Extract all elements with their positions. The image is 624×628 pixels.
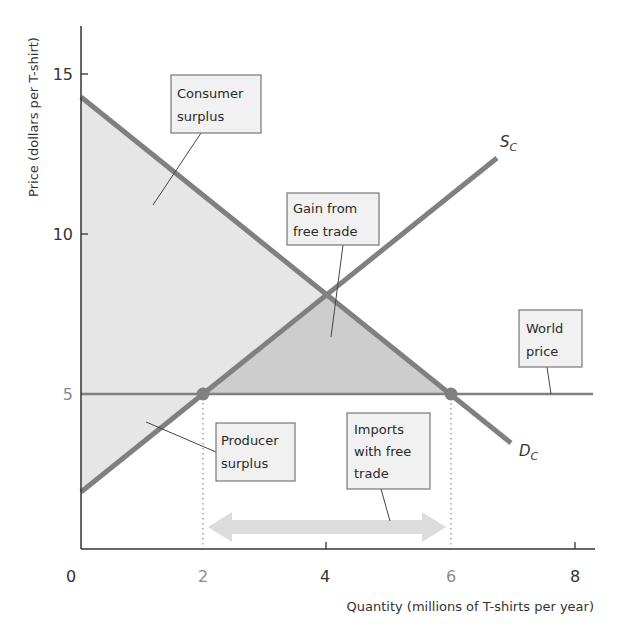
y-tick-label-10: 10 — [53, 225, 73, 244]
supply-curve-label: SC — [500, 133, 518, 154]
producer-surplus-box: Producer surplus — [216, 423, 295, 481]
imports-double-arrow — [208, 512, 446, 542]
gain-line-1: Gain from — [293, 201, 357, 216]
world-price-leader — [547, 367, 551, 394]
producer-surplus-line-2: surplus — [221, 456, 268, 471]
producer-surplus-leader — [146, 422, 216, 452]
world-price-line-2: price — [526, 344, 558, 359]
imports-line-3: trade — [354, 466, 389, 481]
x-tick-label-6: 6 — [446, 567, 456, 586]
world-price-line-1: World — [526, 321, 563, 336]
x-tick-label-4: 4 — [320, 567, 330, 586]
x-tick-label-8: 8 — [570, 567, 580, 586]
domestic-production-point — [197, 388, 210, 401]
consumer-surplus-box: Consumer surplus — [171, 75, 261, 133]
y-tick-label-15: 15 — [53, 65, 73, 84]
imports-line-2: with free — [354, 444, 411, 459]
consumer-surplus-line-1: Consumer — [177, 86, 244, 101]
x-axis-title: Quantity (millions of T-shirts per year) — [347, 599, 594, 614]
consumer-surplus-line-2: surplus — [177, 109, 224, 124]
imports-leader — [381, 489, 390, 521]
gain-from-trade-box: Gain from free trade — [287, 193, 379, 245]
trade-surplus-chart: 15 10 5 0 2 4 6 8 Price (dollars per T-s… — [0, 0, 624, 628]
y-tick-label-5: 5 — [63, 385, 73, 404]
world-price-box: World price — [519, 310, 582, 367]
demand-curve-label: DC — [519, 442, 539, 463]
gain-line-2: free trade — [293, 224, 357, 239]
x-tick-label-2: 2 — [198, 567, 208, 586]
y-axis-title: Price (dollars per T-shirt) — [26, 37, 41, 197]
domestic-consumption-point — [445, 388, 458, 401]
imports-box: Imports with free trade — [347, 413, 430, 489]
producer-surplus-line-1: Producer — [221, 433, 279, 448]
imports-line-1: Imports — [354, 422, 404, 437]
x-tick-label-0: 0 — [66, 567, 76, 586]
